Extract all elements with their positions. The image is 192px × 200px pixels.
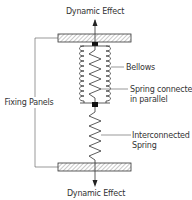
parallel-spring-label-line1: Spring connected [130,85,192,94]
middle-connector-block [92,102,98,107]
top-connector-block [92,42,98,46]
interconnected-spring [89,107,101,164]
bottom-effect-label: Dynamic Effect [67,189,125,198]
bellows [80,46,111,103]
parallel-spring [89,46,101,103]
fixing-panels-label: Fixing Panels [4,98,53,107]
parallel-spring-label-line2: in parallel [130,95,167,104]
interconnected-spring-label-line2: Spring [132,141,157,150]
bottom-fixing-panel [58,163,131,171]
top-effect-label: Dynamic Effect [66,7,124,16]
interconnected-spring-label-line1: Interconnected [132,131,190,140]
bellows-label: Bellows [126,63,155,72]
bellows-spring-diagram: Dynamic Effect Dynamic Effect Fixing Pan… [0,0,192,200]
top-fixing-panel [58,34,131,42]
